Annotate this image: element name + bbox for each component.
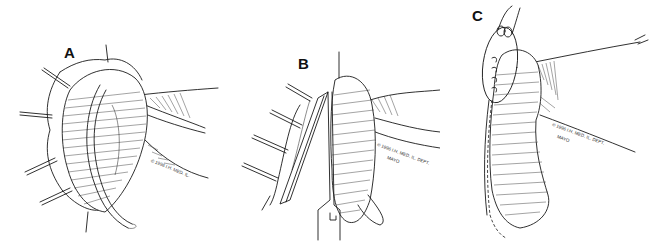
panel-a-drawing (0, 0, 220, 247)
tissue-upper-edge (370, 90, 440, 100)
tissue-band-lower (140, 112, 205, 133)
suture-1 (286, 84, 312, 101)
panel-b: B © 1996 I.H. MED. IL. DEPT. MAYO (220, 0, 440, 247)
suture-4 (242, 163, 278, 181)
tissue-upper-edge (140, 88, 218, 95)
panel-b-drawing (220, 0, 440, 247)
suture-4 (40, 188, 72, 205)
tissue-lower-edge (540, 115, 635, 152)
panel-label-b: B (298, 55, 309, 72)
panel-c: C © 1996 I.H. MED. IL. DEPT. MAYO (440, 0, 662, 247)
panel-c-drawing (440, 0, 662, 247)
suture-3 (252, 135, 288, 153)
clamp-jaw-line (286, 96, 324, 202)
tissue-upper-edge (535, 42, 640, 62)
suture-bottom (86, 212, 88, 232)
panel-label-a: A (64, 44, 75, 61)
clamp-notch (330, 213, 336, 220)
finger-right-edge (512, 8, 520, 34)
organ-tube (490, 50, 549, 228)
panel-a: A © 1996 I.H. MED. IL. (0, 0, 220, 247)
suture-2 (270, 110, 302, 128)
panel-label-c: C (472, 7, 483, 24)
suture-bottom (262, 196, 270, 210)
tissue-band-upper (375, 118, 440, 132)
surgical-illustration-figure: A © 1996 I.H. MED. IL. (0, 0, 662, 247)
organ-mass (331, 76, 376, 222)
clamp-jaw-outer (280, 92, 328, 204)
incision-tip (128, 224, 136, 228)
tissue-hatching (148, 93, 190, 165)
